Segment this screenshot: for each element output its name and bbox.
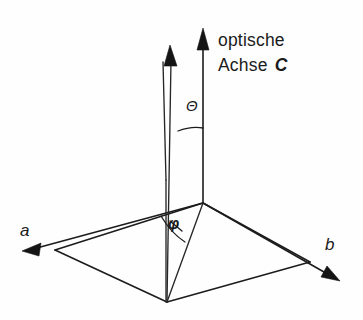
angle-theta-label: Θ: [186, 98, 198, 114]
tilted-vector-line: [167, 60, 171, 302]
axis-b-line: [203, 203, 331, 276]
optical-axis-label-line2: AchseC: [218, 56, 287, 74]
plane-edge-left-upper: [55, 203, 203, 250]
vertical-upper-line: [163, 62, 166, 180]
angle-phi-label: φ: [168, 216, 179, 233]
axis-b-group: [203, 203, 340, 281]
optical-axis-symbol-c: C: [268, 55, 288, 75]
optical-axis-c-arrowhead: [197, 28, 209, 50]
plane-edge-right-lower: [167, 262, 310, 302]
theta-arc: [178, 127, 203, 131]
figure-svg: [0, 0, 363, 320]
diagram-canvas: optische AchseC a b Θ φ: [0, 0, 363, 320]
axis-b-arrowhead: [321, 266, 340, 281]
axis-a-arrowhead: [22, 243, 41, 256]
optical-axis-label-line1: optische: [218, 31, 285, 49]
plane-edge-left-lower: [55, 250, 167, 302]
axis-b-label: b: [325, 236, 334, 254]
axis-a-label: a: [20, 222, 29, 240]
optical-axis-c-group: [197, 28, 209, 203]
optical-axis-label-achse: Achse: [218, 55, 268, 75]
tilted-vector-arrowhead: [164, 45, 177, 66]
basal-plane-parallelogram: [55, 203, 310, 302]
